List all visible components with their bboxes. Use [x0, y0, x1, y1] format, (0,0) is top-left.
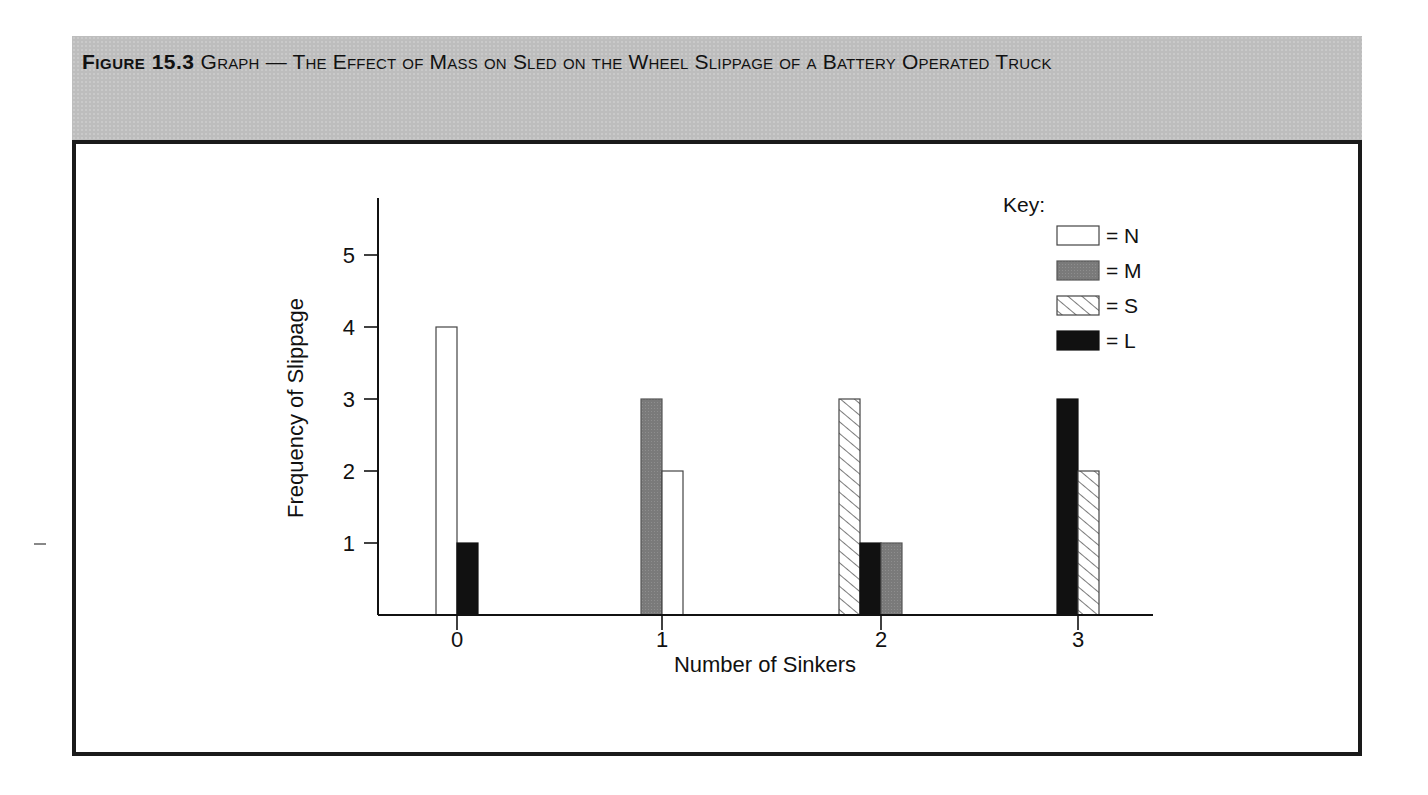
legend-swatch-N [1057, 226, 1099, 245]
legend-swatch-S [1057, 296, 1099, 315]
legend-swatch-M [1057, 261, 1099, 280]
y-tick-label: 3 [343, 387, 355, 412]
y-axis-label: Frequency of Slippage [283, 298, 308, 518]
bar-S-sinkers-3 [1078, 471, 1099, 615]
x-tick-label: 3 [1072, 627, 1084, 652]
bar-chart: 12345 0123 Frequency of Slippage Number … [0, 0, 1428, 795]
y-ticks: 12345 [343, 243, 378, 556]
bar-M-sinkers-2 [881, 543, 902, 615]
bar-N-sinkers-1 [662, 471, 683, 615]
bar-M-sinkers-1 [641, 399, 662, 615]
legend: Key: = N= M= S= L [1003, 193, 1142, 352]
legend-label-M: = M [1106, 259, 1142, 282]
bar-L-sinkers-3 [1057, 399, 1078, 615]
y-tick-label: 5 [343, 243, 355, 268]
x-axis-label: Number of Sinkers [674, 652, 856, 677]
bar-L-sinkers-2 [860, 543, 881, 615]
x-tick-label: 0 [451, 627, 463, 652]
bars-layer [436, 327, 1099, 615]
bar-L-sinkers-0 [457, 543, 478, 615]
x-tick-label: 2 [875, 627, 887, 652]
y-tick-label: 1 [343, 531, 355, 556]
y-tick-label: 2 [343, 459, 355, 484]
y-tick-label: 4 [343, 315, 355, 340]
legend-swatch-L [1057, 331, 1099, 350]
x-ticks: 0123 [451, 615, 1084, 652]
bar-N-sinkers-0 [436, 327, 457, 615]
legend-label-L: = L [1106, 329, 1136, 352]
bar-S-sinkers-2 [839, 399, 860, 615]
legend-title: Key: [1003, 193, 1045, 216]
x-tick-label: 1 [656, 627, 668, 652]
legend-label-S: = S [1106, 294, 1138, 317]
legend-label-N: = N [1106, 224, 1139, 247]
